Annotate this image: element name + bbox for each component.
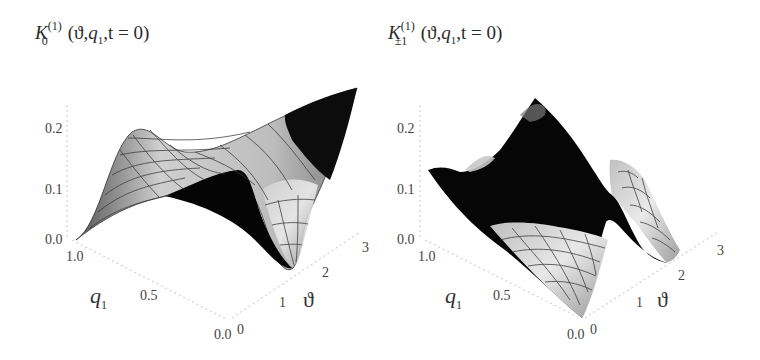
q-axis-label-text: q <box>445 283 456 308</box>
theta-tick-0: 0 <box>590 322 597 338</box>
title-args-prefix: (ϑ, <box>421 22 441 43</box>
theta-tick-3: 3 <box>362 240 369 256</box>
right-plot-panel: K(1)±1(ϑ,q1,t = 0) 0.2 0.1 0.0 1.0 0.5 0… <box>380 0 760 360</box>
title-q: q <box>441 22 451 43</box>
title-subscript: ±1 <box>395 34 415 49</box>
title-q: q <box>88 22 98 43</box>
z-tick-0.0: 0.0 <box>45 232 63 248</box>
title-args-suffix: ,t = 0) <box>456 22 502 43</box>
q-axis-label-sub: 1 <box>101 298 107 312</box>
q-tick-0.0: 0.0 <box>214 327 232 343</box>
z-tick-0.1: 0.1 <box>397 182 415 198</box>
q-tick-1.0: 1.0 <box>66 249 84 265</box>
left-surface-plot <box>0 0 380 360</box>
title-args-prefix: (ϑ, <box>68 22 88 43</box>
z-tick-0.0: 0.0 <box>397 232 415 248</box>
title-superscript: (1) <box>401 19 415 33</box>
title-q-sub: 1 <box>98 34 104 46</box>
title-subscript: 0 <box>42 34 62 49</box>
title-args-suffix: ,t = 0) <box>103 22 149 43</box>
theta-tick-2: 2 <box>678 268 685 284</box>
theta-tick-3: 3 <box>717 243 724 259</box>
q-axis-label-sub: 1 <box>456 298 462 312</box>
left-plot-title: K(1)0(ϑ,q1,t = 0) <box>35 22 149 44</box>
q-tick-1.0: 1.0 <box>418 249 436 265</box>
theta-tick-0: 0 <box>237 322 244 338</box>
theta-tick-1: 1 <box>279 295 286 311</box>
z-tick-0.2: 0.2 <box>45 121 63 137</box>
q-tick-0.5: 0.5 <box>493 288 511 304</box>
q-axis-label-text: q <box>90 283 101 308</box>
right-surface-plot <box>380 0 760 360</box>
theta-tick-2: 2 <box>322 265 329 281</box>
z-tick-0.1: 0.1 <box>45 182 63 198</box>
q-axis-label: q1 <box>445 283 462 309</box>
q-tick-0.5: 0.5 <box>140 288 158 304</box>
q-axis-label: q1 <box>90 283 107 309</box>
theta-tick-1: 1 <box>636 295 643 311</box>
title-superscript: (1) <box>48 19 62 33</box>
left-plot-panel: K(1)0(ϑ,q1,t = 0) 0.2 0.1 0.0 1.0 0.5 0.… <box>0 0 380 360</box>
title-q-sub: 1 <box>451 34 457 46</box>
theta-axis-label: ϑ <box>303 287 314 313</box>
right-plot-title: K(1)±1(ϑ,q1,t = 0) <box>388 22 502 44</box>
theta-axis-label: ϑ <box>657 287 668 313</box>
q-tick-0.0: 0.0 <box>567 327 585 343</box>
z-tick-0.2: 0.2 <box>397 121 415 137</box>
